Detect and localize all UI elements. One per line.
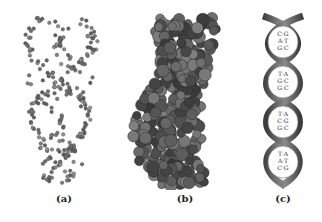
panel-a-ball-and-stick — [0, 0, 120, 190]
panel-c-ribbon-helix: C·GA·TG·CT·AG·CG·CT·AC·GG·CT·AA·TC·G — [245, 0, 322, 190]
panel-b-space-filling — [120, 0, 235, 190]
svg-text:C·G: C·G — [277, 117, 288, 124]
svg-text:G·C: G·C — [277, 124, 289, 131]
svg-text:A·T: A·T — [277, 157, 288, 164]
svg-text:G·C: G·C — [277, 84, 289, 91]
svg-text:T·A: T·A — [278, 70, 289, 77]
svg-text:C·G: C·G — [277, 164, 288, 171]
svg-text:C·G: C·G — [277, 30, 288, 37]
ribbon-helix-icon: C·GA·TG·CT·AG·CG·CT·AC·GG·CT·AA·TC·G — [245, 0, 322, 190]
svg-text:G·C: G·C — [277, 44, 289, 51]
svg-text:T·A: T·A — [278, 110, 289, 117]
svg-text:T·A: T·A — [278, 150, 289, 157]
caption-a: (a) — [49, 193, 79, 204]
svg-text:A·T: A·T — [277, 37, 288, 44]
caption-c: (c) — [268, 193, 298, 204]
ball-and-stick-dna-icon — [0, 0, 120, 190]
svg-text:G·C: G·C — [277, 77, 289, 84]
space-filling-dna-icon — [120, 0, 235, 190]
caption-b: (b) — [170, 193, 200, 204]
